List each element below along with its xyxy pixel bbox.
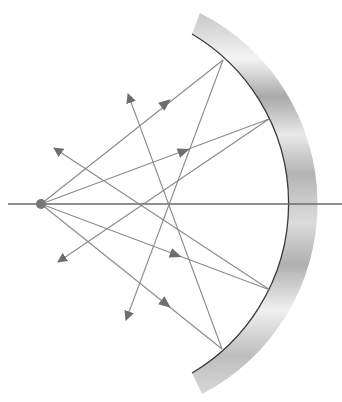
ray-1-arrow-icon — [158, 95, 174, 110]
point-source — [36, 199, 46, 209]
ray-3-incident — [41, 204, 270, 290]
ray-4-arrow-icon — [158, 296, 174, 311]
ray-3-reflected — [54, 148, 270, 290]
diagram-canvas — [0, 0, 342, 402]
ray-3-arrow-icon — [169, 248, 184, 262]
concave-mirror-diagram — [0, 0, 342, 402]
